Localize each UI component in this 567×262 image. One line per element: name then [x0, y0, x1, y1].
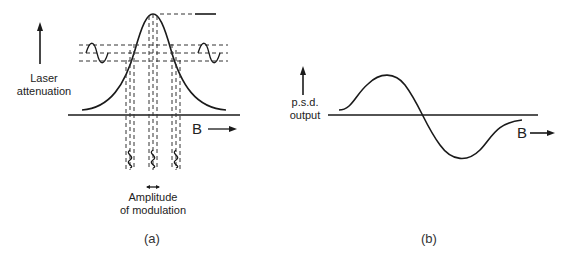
y-axis-label-a: Laser attenuation	[14, 72, 74, 98]
x-axis-label-b: B	[517, 124, 527, 141]
psd-curve	[339, 75, 522, 158]
amplitude-label: Amplitude of modulation	[118, 191, 188, 217]
diagram-canvas	[0, 0, 567, 262]
y-axis-label-b: p.s.d. output	[288, 96, 322, 122]
x-axis-label-a: B	[192, 120, 202, 137]
caption-a: (a)	[144, 231, 160, 246]
caption-b: (b)	[421, 231, 437, 246]
